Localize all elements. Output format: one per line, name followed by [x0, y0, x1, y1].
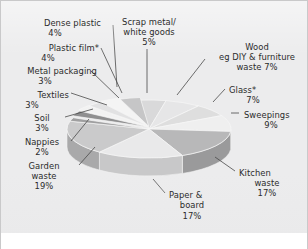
label-paper-board-value: 17% — [163, 212, 221, 222]
leader-line-kitchen_waste — [215, 157, 235, 171]
leader-line-paper_board — [153, 179, 165, 193]
label-dense-plastic-value: 4% — [9, 29, 101, 39]
label-plastic-film-name: Plastic film* — [49, 43, 99, 53]
label-soil-value: 3% — [11, 124, 73, 134]
label-sweepings-value: 9% — [241, 121, 301, 131]
label-metal-packaging-name: Metal packaging — [27, 66, 97, 76]
label-nappies-value: 2% — [7, 148, 77, 158]
label-soil-name: Soil — [34, 113, 49, 123]
label-paper-board-name: Paper & — [169, 190, 202, 200]
label-kitchen-waste-value: 17% — [237, 189, 297, 199]
label-kitchen-waste-name: Kitchen — [239, 168, 271, 178]
label-textiles-value: 3% — [1, 101, 63, 111]
leader-line-plastic_film — [101, 48, 122, 93]
label-sweepings-name: Sweepings — [244, 110, 290, 120]
label-wood-name: Wood — [245, 42, 269, 52]
label-dense-plastic-name: Dense plastic — [44, 18, 101, 28]
label-paper-board-line2: board — [163, 201, 221, 211]
label-glass-value: 7% — [223, 96, 283, 106]
chart-figure: Dense plastic 4% Plastic film* 4% Metal … — [0, 0, 308, 249]
label-scrap-metal-value: 5% — [109, 38, 189, 48]
pie-top-face — [67, 97, 231, 158]
label-garden-waste-name: Garden — [29, 161, 60, 171]
label-nappies-name: Nappies — [25, 137, 59, 147]
label-plastic-film-value: 4% — [5, 54, 91, 64]
label-metal-packaging-value: 3% — [1, 77, 89, 87]
label-wood-value: waste 7% — [209, 63, 305, 73]
label-textiles-name: Textiles — [37, 90, 69, 100]
leader-line-wood — [177, 59, 205, 95]
label-garden-waste-value: 19% — [7, 182, 81, 192]
label-glass-name: Glass* — [229, 85, 256, 95]
label-glass: Glass* — [229, 86, 295, 96]
leader-line-textiles — [71, 93, 107, 105]
label-scrap-metal-name: Scrap metal/ — [122, 17, 176, 27]
